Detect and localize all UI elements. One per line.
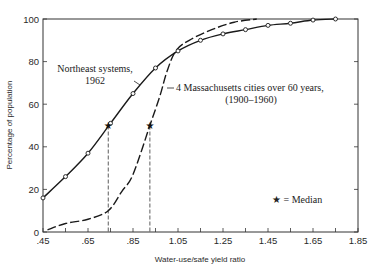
circle-marker bbox=[86, 151, 90, 155]
x-tick-label: 1.45 bbox=[259, 235, 278, 246]
circle-marker bbox=[199, 38, 203, 42]
median-legend: ★ = Median bbox=[272, 194, 322, 205]
y-tick-label: 0 bbox=[34, 227, 39, 238]
circle-marker bbox=[64, 175, 68, 179]
y-tick-label: 40 bbox=[28, 141, 39, 152]
circle-marker bbox=[221, 32, 225, 36]
chart: .45.65.851.051.251.451.651.8502040608010… bbox=[0, 0, 381, 270]
x-tick-label: 1.25 bbox=[214, 235, 233, 246]
annotation-massachusetts: 4 Massachusetts cities over 60 years, (1… bbox=[167, 82, 324, 106]
x-tick-label: .65 bbox=[81, 235, 94, 246]
x-tick-label: 1.85 bbox=[349, 235, 368, 246]
annotation-massachusetts-line2: (1900–1960) bbox=[225, 94, 277, 106]
y-tick-label: 80 bbox=[28, 56, 39, 67]
y-tick-label: 20 bbox=[28, 184, 39, 195]
median-star-icon: ★ bbox=[145, 120, 154, 131]
circle-marker bbox=[131, 92, 135, 96]
y-tick-label: 60 bbox=[28, 99, 39, 110]
annotation-massachusetts-line1: 4 Massachusetts cities over 60 years, bbox=[176, 82, 324, 93]
annotation-northeast-arrow bbox=[134, 81, 140, 85]
circle-marker bbox=[266, 23, 270, 27]
circle-marker bbox=[289, 21, 293, 25]
circle-marker bbox=[154, 66, 158, 70]
series-northeast-line bbox=[43, 19, 336, 198]
axis-ticks: .45.65.851.051.251.451.651.8502040608010… bbox=[23, 14, 367, 247]
circle-marker bbox=[311, 18, 315, 22]
circle-marker bbox=[41, 196, 45, 200]
x-axis-title: Water-use/safe yield ratio bbox=[155, 255, 246, 264]
circle-marker bbox=[334, 17, 338, 21]
annotation-northeast-line2: 1962 bbox=[85, 75, 105, 86]
median-star-icon: ★ bbox=[104, 120, 113, 131]
x-tick-label: 1.05 bbox=[169, 235, 188, 246]
circle-marker bbox=[176, 49, 180, 53]
x-tick-label: 1.65 bbox=[304, 235, 323, 246]
annotation-northeast-line1: Northeast systems, bbox=[57, 63, 133, 74]
circle-marker bbox=[244, 28, 248, 32]
x-tick-label: .85 bbox=[126, 235, 139, 246]
median-drop-lines bbox=[108, 126, 150, 233]
y-axis-title: Percentage of population bbox=[5, 81, 14, 170]
y-tick-label: 100 bbox=[23, 14, 39, 25]
annotation-northeast: Northeast systems, 1962 bbox=[57, 63, 140, 86]
